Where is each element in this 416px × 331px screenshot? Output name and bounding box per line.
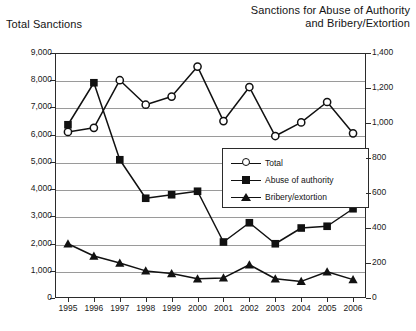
y-axis-left-tick-mark — [50, 135, 55, 136]
x-axis-tick-label: 2004 — [292, 303, 311, 313]
data-point-filled-square — [220, 238, 228, 246]
y-axis-left-tick-mark — [50, 107, 55, 108]
y-axis-left-tick-label: 8,000 — [0, 74, 52, 84]
data-point-filled-square — [168, 191, 176, 199]
legend-item-label: Bribery/extortion — [265, 192, 327, 202]
x-axis-tick-label: 1997 — [110, 303, 129, 313]
x-axis-tick-label: 2002 — [240, 303, 259, 313]
y-axis-right-tick-mark — [366, 53, 371, 54]
y-axis-right-tick-label: 1,400 — [372, 47, 412, 57]
data-point-filled-square — [297, 224, 305, 232]
data-point-filled-square — [246, 219, 254, 227]
x-axis-tick-mark — [94, 298, 95, 302]
series-bribery-extortion — [63, 239, 357, 285]
y-axis-right-tick-mark — [366, 193, 371, 194]
data-point-open-circle — [298, 119, 305, 126]
x-axis-tick-mark — [301, 298, 302, 302]
data-point-open-circle — [272, 132, 279, 139]
y-axis-right-tick-mark — [366, 158, 371, 159]
y-axis-right-tick-label: 0 — [372, 292, 412, 302]
x-axis-tick-label: 2001 — [214, 303, 233, 313]
data-point-filled-triangle — [89, 251, 98, 259]
data-point-filled-square — [64, 121, 72, 129]
y-axis-left-tick-mark — [50, 216, 55, 217]
x-axis-tick-mark — [68, 298, 69, 302]
y-axis-right-tick-label: 200 — [372, 257, 412, 267]
y-axis-left-tick-label: 5,000 — [0, 156, 52, 166]
legend-item: Abuse of authority — [231, 172, 334, 188]
y-axis-left-tick-label: 1,000 — [0, 265, 52, 275]
data-point-filled-square — [142, 194, 150, 202]
data-point-filled-square — [271, 240, 279, 248]
x-axis-tick-label: 1998 — [136, 303, 155, 313]
x-axis-tick-mark — [223, 298, 224, 302]
data-point-open-circle — [90, 124, 97, 131]
data-point-filled-square — [116, 156, 124, 164]
y-axis-left-tick-label: 6,000 — [0, 129, 52, 139]
y-axis-left-tick-mark — [50, 189, 55, 190]
data-point-open-circle — [64, 128, 71, 135]
data-point-filled-triangle — [63, 239, 72, 247]
y-axis-left-tick-label: 2,000 — [0, 238, 52, 248]
x-axis-tick-label: 1999 — [162, 303, 181, 313]
y-axis-right-tick-label: 1,000 — [372, 117, 412, 127]
x-axis-tick-mark — [120, 298, 121, 302]
y-axis-left-tick-mark — [50, 244, 55, 245]
y-axis-left-tick-label: 4,000 — [0, 183, 52, 193]
series-line — [68, 244, 353, 282]
data-point-open-circle — [220, 117, 227, 124]
y-axis-right-tick-mark — [366, 88, 371, 89]
legend-marker-filled-triangle-icon — [231, 191, 261, 203]
y-axis-right-tick-label: 1,200 — [372, 82, 412, 92]
chart-figure: Total Sanctions Sanctions for Abuse of A… — [0, 0, 416, 331]
x-axis-tick-mark — [146, 298, 147, 302]
series-total — [64, 63, 356, 140]
x-axis-tick-label: 2003 — [266, 303, 285, 313]
legend-symbol-open-circle-icon — [242, 158, 250, 166]
data-point-filled-triangle — [245, 260, 254, 268]
x-axis-tick-label: 1996 — [84, 303, 103, 313]
x-axis-tick-mark — [327, 298, 328, 302]
data-point-open-circle — [246, 83, 253, 90]
x-axis-tick-mark — [198, 298, 199, 302]
data-point-open-circle — [349, 130, 356, 137]
data-point-open-circle — [168, 93, 175, 100]
y-axis-right-tick-mark — [366, 298, 371, 299]
y-axis-right-tick-label: 600 — [372, 187, 412, 197]
y-axis-left-tick-label: 3,000 — [0, 210, 52, 220]
data-point-filled-square — [194, 187, 202, 195]
y-axis-right-tick-mark — [366, 228, 371, 229]
y-axis-left-tick-label: 7,000 — [0, 101, 52, 111]
chart-legend: TotalAbuse of authorityBribery/extortion — [222, 148, 369, 208]
x-axis-tick-mark — [275, 298, 276, 302]
legend-symbol-filled-triangle-icon — [241, 193, 251, 201]
series-line — [68, 67, 353, 136]
legend-item: Bribery/extortion — [231, 189, 327, 205]
data-point-open-circle — [116, 77, 123, 84]
legend-marker-filled-square-icon — [231, 174, 261, 186]
y-axis-left-tick-mark — [50, 162, 55, 163]
y-axis-left-tick-label: 0 — [0, 292, 52, 302]
data-point-filled-triangle — [323, 267, 332, 275]
legend-symbol-filled-square-icon — [242, 176, 250, 184]
y-axis-left-tick-mark — [50, 298, 55, 299]
data-point-open-circle — [194, 63, 201, 70]
data-point-open-circle — [142, 101, 149, 108]
y-axis-right-tick-label: 800 — [372, 152, 412, 162]
y-axis-left-tick-label: 9,000 — [0, 47, 52, 57]
legend-marker-open-circle-icon — [231, 157, 261, 169]
x-axis-tick-mark — [172, 298, 173, 302]
data-point-filled-square — [323, 222, 331, 230]
x-axis-tick-mark — [353, 298, 354, 302]
y-axis-right-tick-mark — [366, 123, 371, 124]
data-point-open-circle — [324, 98, 331, 105]
legend-item-label: Abuse of authority — [265, 175, 334, 185]
y-axis-left-tick-mark — [50, 53, 55, 54]
x-axis-tick-label: 2005 — [318, 303, 337, 313]
y-axis-right-tick-label: 400 — [372, 222, 412, 232]
x-axis-tick-label: 1995 — [58, 303, 77, 313]
legend-item-label: Total — [265, 158, 283, 168]
data-point-filled-square — [90, 79, 98, 87]
y-axis-right-tick-mark — [366, 263, 371, 264]
y-axis-left-tick-mark — [50, 80, 55, 81]
